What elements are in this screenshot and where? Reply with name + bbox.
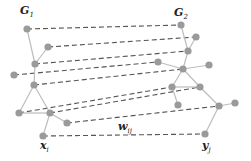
graph2-node bbox=[184, 47, 191, 54]
graph2-node bbox=[177, 21, 184, 28]
graph1-node bbox=[63, 119, 70, 126]
graph2-node bbox=[196, 83, 203, 90]
graph2-node bbox=[215, 102, 222, 109]
match-edge bbox=[67, 106, 219, 123]
graph2-node bbox=[174, 101, 181, 108]
graph2-label: G2 bbox=[174, 7, 188, 21]
graph2-edge bbox=[200, 87, 219, 106]
graph2-node bbox=[231, 99, 238, 106]
graph1-edge bbox=[19, 85, 34, 113]
graph2-edge bbox=[205, 106, 219, 134]
graph2-node bbox=[205, 61, 212, 68]
edge-weight-label: wij bbox=[118, 121, 132, 135]
graph1-node bbox=[10, 71, 17, 78]
match-edge bbox=[48, 37, 196, 47]
graph1-node bbox=[15, 109, 22, 116]
graph1-edge bbox=[43, 113, 50, 136]
graph-matching-diagram: G1 G2 xi yj wij bbox=[0, 0, 251, 161]
graph1-node bbox=[46, 109, 53, 116]
graph1-node bbox=[23, 25, 30, 32]
graph2-node bbox=[168, 83, 175, 90]
graph2-edge bbox=[183, 65, 209, 69]
graph2-node bbox=[154, 58, 161, 65]
graph1-label: G1 bbox=[20, 5, 34, 19]
graph1-edge bbox=[27, 29, 35, 64]
graph2-edge bbox=[158, 62, 183, 69]
match-edge bbox=[50, 87, 200, 113]
match-edge bbox=[35, 51, 188, 64]
diagram-canvas bbox=[0, 0, 251, 161]
graph1-node bbox=[31, 60, 38, 67]
graph2-node bbox=[192, 33, 199, 40]
match-edge bbox=[27, 25, 181, 29]
graph2-node bbox=[179, 65, 186, 72]
graph2-edge bbox=[183, 69, 200, 87]
graph1-node bbox=[44, 43, 51, 50]
graph1-edge bbox=[34, 85, 50, 113]
graph1-node bbox=[30, 81, 37, 88]
graph2-node bbox=[201, 130, 208, 137]
node-xi-label: xi bbox=[40, 140, 49, 154]
node-yj-label: yj bbox=[202, 140, 211, 154]
